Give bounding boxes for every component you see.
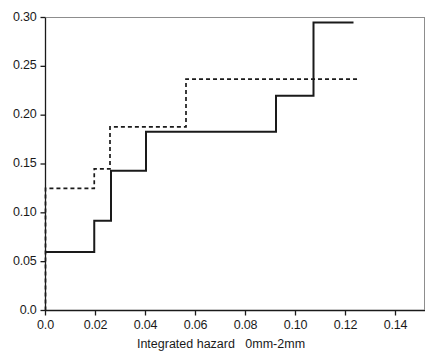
y-tick-label: 0.0 — [0, 303, 37, 317]
x-tick-marks — [46, 311, 396, 316]
series-dashed-step — [46, 79, 359, 310]
y-tick-label: 0.30 — [0, 10, 37, 24]
y-tick-label: 0.15 — [0, 156, 37, 170]
y-tick-label: 0.05 — [0, 254, 37, 268]
series-solid-step — [46, 22, 354, 252]
axes-group — [45, 17, 425, 311]
y-tick-label: 0.10 — [0, 205, 37, 219]
plot-area — [0, 0, 442, 353]
y-tick-label: 0.25 — [0, 58, 37, 72]
chart-container: 0.00.050.100.150.200.250.30 0.00.020.040… — [0, 0, 442, 353]
x-tick-label: 0.14 — [366, 318, 426, 332]
data-series-group — [46, 22, 359, 310]
x-axis-title: Integrated hazard 0mm-2mm — [0, 337, 442, 351]
y-tick-label: 0.20 — [0, 107, 37, 121]
